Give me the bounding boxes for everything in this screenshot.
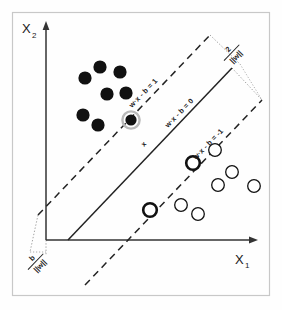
y-axis-label-text: X [22,21,31,36]
data-point-filled [119,86,132,99]
data-point-hollow [248,180,261,193]
data-point-hollow [192,208,205,221]
data-point-filled [78,71,91,84]
data-point-filled-support [125,114,136,125]
svm-diagram-figure: X 1 X 2 w·x - b = 1 w·x - b = 0 w·x - b … [0,0,282,310]
x-axis-label-sub: 1 [245,261,250,270]
svm-diagram-canvas: X 1 X 2 w·x - b = 1 w·x - b = 0 w·x - b … [0,0,282,310]
data-point-hollow [175,199,188,212]
data-point-filled [91,118,104,131]
data-point-hollow [212,179,225,192]
x-axis-label-text: X [235,252,244,267]
y-axis-label-sub: 2 [32,31,37,40]
data-point-filled [113,65,126,78]
data-point-hollow [226,166,239,179]
data-point-hollow-support [143,203,157,217]
data-point-filled [100,87,113,100]
data-point-filled [76,108,89,121]
data-point-filled [93,60,106,73]
